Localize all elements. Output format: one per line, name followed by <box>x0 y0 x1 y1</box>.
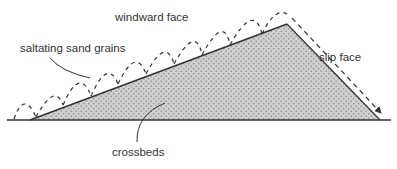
crossbeds-label: crossbeds <box>112 147 164 159</box>
dune-diagram <box>0 0 397 169</box>
saltation-leader-line <box>50 58 90 78</box>
windward-face-label: windward face <box>115 12 189 24</box>
dune-body <box>30 24 380 120</box>
saltating-sand-grains-label: saltating sand grains <box>20 43 125 55</box>
slip-face-label: slip face <box>319 52 361 64</box>
